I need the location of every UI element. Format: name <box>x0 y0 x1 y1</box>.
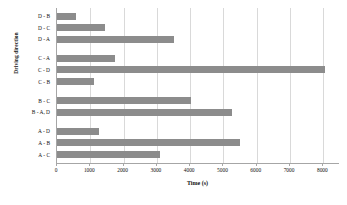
y-tick-label: B - C <box>38 97 50 105</box>
x-tick-mark <box>289 163 290 166</box>
y-tick-label: C - B <box>38 78 50 86</box>
bar-row <box>57 13 340 20</box>
y-tick-label: A - D <box>38 127 50 135</box>
y-tick-label: C - D <box>38 66 50 74</box>
y-tick-label: D - B <box>38 12 50 20</box>
bar <box>57 97 191 104</box>
bar <box>57 13 76 20</box>
bar-series <box>57 8 339 163</box>
x-axis-tick-labels: 010002000300040005000600070008000 <box>0 166 347 178</box>
x-axis-title: Time (s) <box>56 180 339 186</box>
x-tick-label: 8000 <box>302 166 342 175</box>
x-tick-mark <box>156 163 157 166</box>
bar <box>57 151 160 158</box>
x-tick-mark <box>222 163 223 166</box>
y-tick-label: D - A <box>38 35 50 43</box>
plot-area <box>56 8 339 163</box>
bar <box>57 24 105 31</box>
bar-row <box>57 55 340 62</box>
x-tick-mark <box>189 163 190 166</box>
bar <box>57 109 232 116</box>
bar-chart: Driving direction D - BD - CD - AC - AC … <box>0 0 347 205</box>
bar-row <box>57 97 340 104</box>
bar <box>57 36 174 43</box>
x-tick-mark <box>322 163 323 166</box>
bar <box>57 128 99 135</box>
bar-row <box>57 36 340 43</box>
bar-row <box>57 139 340 146</box>
y-axis-tick-labels: D - BD - CD - AC - AC - DC - BB - CB - A… <box>0 8 54 163</box>
bar-row <box>57 151 340 158</box>
x-axis-line <box>56 163 339 164</box>
bar-row <box>57 66 340 73</box>
y-tick-label: A - B <box>38 139 50 147</box>
y-tick-label: C - A <box>38 54 50 62</box>
y-tick-label: D - C <box>38 24 50 32</box>
x-tick-mark <box>123 163 124 166</box>
bar <box>57 139 240 146</box>
bar-row <box>57 24 340 31</box>
bar-row <box>57 109 340 116</box>
bar <box>57 78 94 85</box>
bar <box>57 66 325 73</box>
bar-row <box>57 128 340 135</box>
x-tick-mark <box>56 163 57 166</box>
x-tick-mark <box>256 163 257 166</box>
bar-row <box>57 78 340 85</box>
y-tick-label: B - A, D <box>32 108 50 116</box>
y-tick-label: A - C <box>38 151 50 159</box>
bar <box>57 55 115 62</box>
x-tick-mark <box>89 163 90 166</box>
